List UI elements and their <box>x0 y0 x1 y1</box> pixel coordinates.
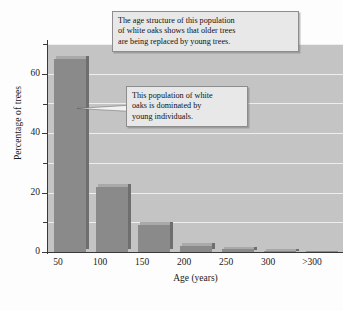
y-tick-60 <box>42 74 47 75</box>
bar-side-face <box>128 184 131 249</box>
y-axis-title: Percentage of trees <box>13 53 23 193</box>
bar-side-face <box>296 249 299 251</box>
callout-age-structure-line1: The age structure of this population <box>118 16 293 26</box>
bar-front-face <box>54 59 86 252</box>
y-tick-70 <box>43 44 47 45</box>
callout-young-individuals-line3: young individuals. <box>132 112 242 122</box>
bar-100 <box>96 184 128 252</box>
plot-area <box>48 44 343 252</box>
callout-pointer-line <box>77 105 129 112</box>
y-tick-0 <box>42 252 47 253</box>
bar-side-face <box>86 56 89 249</box>
x-axis-title: Age (years) <box>48 273 343 283</box>
x-axis-line <box>47 252 343 253</box>
x-axis-label-250: 250 <box>206 257 246 267</box>
y-tick-20 <box>42 193 47 194</box>
callout-young-individuals-line2: oaks is dominated by <box>132 101 242 111</box>
x-axis-label-300: 300 <box>248 257 288 267</box>
callout-age-structure-line3: are being replaced by young trees. <box>118 37 293 47</box>
x-axis-label-200: 200 <box>164 257 204 267</box>
bars-layer <box>48 44 343 252</box>
y-axis-label-0: 0 <box>16 247 40 257</box>
callout-age-structure-line2: of white oaks shows that older trees <box>118 26 293 36</box>
callout-young-individuals: This population of white oaks is dominat… <box>126 86 248 127</box>
bar-front-face <box>96 187 128 252</box>
bar-200 <box>180 243 212 252</box>
x-axis-label-over-300: >300 <box>290 257 334 267</box>
callout-age-structure: The age structure of this population of … <box>112 11 299 52</box>
y-axis-line <box>47 40 48 254</box>
bar-150 <box>138 222 170 252</box>
callout-young-individuals-line1: This population of white <box>132 91 242 101</box>
bar-front-face <box>138 225 170 252</box>
bar-side-face <box>212 243 215 249</box>
y-tick-10 <box>43 222 47 223</box>
figure-container: 60 40 20 0 Percentage of trees 50 100 15… <box>0 0 343 311</box>
y-tick-40 <box>42 133 47 134</box>
bar-side-face <box>170 222 173 249</box>
bar-50 <box>54 56 86 252</box>
x-axis-label-100: 100 <box>80 257 120 267</box>
x-axis-label-150: 150 <box>122 257 162 267</box>
y-tick-50 <box>43 104 47 105</box>
y-tick-30 <box>43 163 47 164</box>
x-axis-label-50: 50 <box>38 257 78 267</box>
bar-side-face <box>254 247 257 250</box>
